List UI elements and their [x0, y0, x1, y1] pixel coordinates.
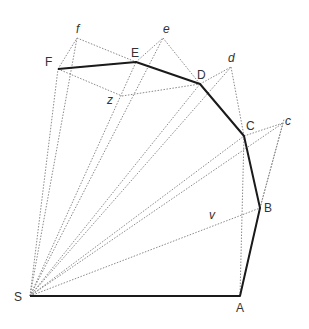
segment-z-D	[122, 84, 200, 96]
point-labels: S A B C D E F f e d c z v	[14, 22, 291, 315]
segment-d-C	[231, 67, 244, 136]
label-e: e	[163, 22, 170, 36]
ray-S-E	[30, 62, 136, 296]
segment-f-E	[77, 38, 136, 62]
label-f: f	[76, 22, 81, 36]
dotted-construction-lines	[30, 38, 284, 296]
ray-S-D	[30, 84, 200, 296]
polygon-boundary	[30, 62, 260, 296]
segment-E-e	[136, 38, 163, 62]
label-v: v	[209, 208, 216, 222]
solid-polygon-path	[30, 62, 260, 296]
label-D: D	[197, 68, 206, 82]
ray-S-B	[30, 208, 260, 296]
label-A: A	[236, 301, 244, 315]
label-F: F	[45, 55, 52, 69]
label-S: S	[14, 290, 22, 304]
label-z: z	[106, 93, 113, 107]
label-B: B	[264, 201, 272, 215]
ray-S-F	[30, 69, 58, 296]
label-d: d	[228, 51, 235, 65]
segment-A-C	[240, 136, 244, 296]
ray-S-f	[30, 38, 77, 296]
polygon-construction-diagram: S A B C D E F f e d c z v	[0, 0, 309, 329]
label-E: E	[131, 46, 139, 60]
label-C: C	[246, 119, 255, 133]
label-c: c	[285, 114, 291, 128]
extension-B-c	[260, 119, 284, 208]
